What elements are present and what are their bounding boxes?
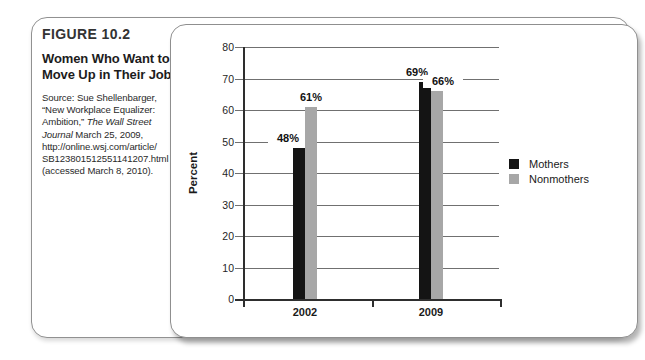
- legend-swatch-nonmothers: [509, 174, 519, 184]
- gridline-20: [235, 236, 499, 237]
- y-tick-label-40: 40: [208, 167, 234, 179]
- y-tick-label-70: 70: [208, 73, 234, 85]
- figure-source-line: “New Workplace Equalizer:: [42, 104, 182, 116]
- figure-source-line: Journal March 25, 2009,: [42, 129, 182, 141]
- figure-source-line: Ambition,” The Wall Street: [42, 116, 182, 128]
- y-tick-label-30: 30: [208, 199, 234, 211]
- figure-source-line: SB123801512551141207.html: [42, 153, 182, 165]
- y-tick-label-50: 50: [208, 136, 234, 148]
- x-category-label-2009: 2009: [406, 306, 456, 318]
- figure-source-line: http://online.wsj.com/article/: [42, 141, 182, 153]
- x-axis-tick-0: [243, 299, 245, 307]
- bar-mothers-2009: [419, 82, 431, 299]
- gridline-40: [235, 173, 499, 174]
- x-axis-tick-2: [500, 299, 502, 307]
- y-tick-label-80: 80: [208, 41, 234, 53]
- x-axis-line: [235, 299, 501, 301]
- y-axis-line: [243, 47, 245, 301]
- figure-source-line: Source: Sue Shellenbarger,: [42, 92, 182, 104]
- y-tick-label-0: 0: [208, 293, 234, 305]
- y-tick-label-10: 10: [208, 262, 234, 274]
- plot-area: 0102030405060708048%69%61%66%20022009Mot…: [171, 25, 637, 337]
- legend-swatch-mothers: [509, 159, 519, 169]
- chart-panel: Percent 0102030405060708048%69%61%66%200…: [170, 24, 638, 338]
- x-axis-tick-1: [372, 299, 374, 307]
- x-category-label-2002: 2002: [280, 306, 330, 318]
- bar-mothers-2002: [293, 148, 305, 299]
- gridline-30: [235, 205, 499, 206]
- legend-label-mothers: Mothers: [529, 158, 569, 170]
- legend-label-nonmothers: Nonmothers: [529, 173, 589, 185]
- figure-10-2: FIGURE 10.2 Women Who Want to Move Up in…: [0, 0, 645, 360]
- gridline-60: [235, 110, 499, 111]
- bar-value-label-nonmothers-2009: 66%: [423, 75, 463, 88]
- figure-source: Source: Sue Shellenbarger,“New Workplace…: [42, 92, 182, 177]
- gridline-80: [235, 47, 499, 48]
- bar-value-label-mothers-2002: 48%: [268, 132, 308, 145]
- y-tick-label-20: 20: [208, 230, 234, 242]
- bar-value-label-nonmothers-2002: 61%: [291, 91, 331, 104]
- bar-nonmothers-2009: [431, 91, 443, 299]
- y-tick-label-60: 60: [208, 104, 234, 116]
- bar-nonmothers-2002: [305, 107, 317, 299]
- gridline-10: [235, 268, 499, 269]
- figure-source-line: (accessed March 8, 2010).: [42, 165, 182, 177]
